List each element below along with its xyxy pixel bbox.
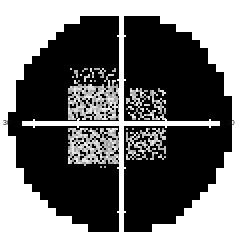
tick-vertical-5 — [117, 233, 126, 235]
visual-field-plot: 30 30 — [0, 0, 241, 238]
tick-horizontal-0 — [33, 119, 35, 128]
vertical-axis — [119, 5, 124, 233]
tick-horizontal-1 — [77, 119, 79, 128]
tick-horizontal-3 — [209, 119, 211, 128]
axis-label-right: 30 — [227, 119, 234, 126]
axis-label-left: 30 — [3, 119, 10, 126]
tick-vertical-0 — [117, 13, 126, 15]
tick-vertical-2 — [117, 79, 126, 81]
tick-vertical-4 — [117, 211, 126, 213]
tick-vertical-3 — [117, 167, 126, 169]
tick-vertical-1 — [117, 35, 126, 37]
tick-horizontal-2 — [165, 119, 167, 128]
